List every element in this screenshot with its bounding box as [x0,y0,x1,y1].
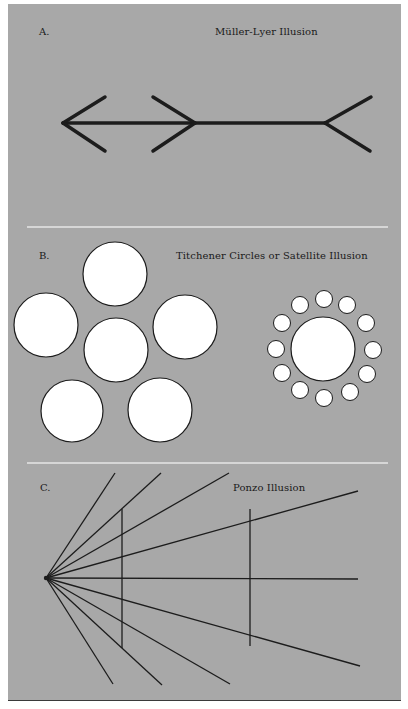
converging-line [46,578,230,684]
large-circle [14,293,78,357]
satellite-circle [339,297,356,314]
satellite-circle [358,315,375,332]
center-circle [291,317,355,381]
satellite-circle [316,390,333,407]
section-b-title: Titchener Circles or Satellite Illusion [176,251,368,261]
satellite-circle [268,341,285,358]
arrow-fin [153,123,195,151]
large-circle [84,318,148,382]
vanishing-point [44,576,48,580]
satellite-circle [292,382,309,399]
large-circle [41,380,103,442]
muller-lyer-diagram [63,97,371,151]
arrow-fin [63,97,105,123]
titchener-circles-diagram [14,242,382,442]
large-circle [153,295,217,359]
satellite-circle [274,315,291,332]
satellite-circle [274,365,291,382]
satellite-circle [292,297,309,314]
section-a-title: Müller-Lyer Illusion [215,27,318,37]
arrow-fin [325,97,371,123]
converging-line [46,578,358,579]
large-circle [128,378,192,442]
satellite-circle [342,384,359,401]
converging-line [46,473,229,578]
large-circle [83,242,147,306]
arrow-fin [325,123,370,151]
section-c-title: Ponzo Illusion [233,483,305,493]
section-c-letter: C. [40,483,50,493]
section-b-letter: B. [39,251,50,261]
section-a-letter: A. [39,27,49,37]
arrow-fin [63,123,105,151]
illusion-figure [0,0,408,709]
arrow-fin [153,97,195,123]
satellite-circle [316,291,333,308]
satellite-circle [365,342,382,359]
satellite-circle [359,366,376,383]
ponzo-diagram [44,473,360,685]
